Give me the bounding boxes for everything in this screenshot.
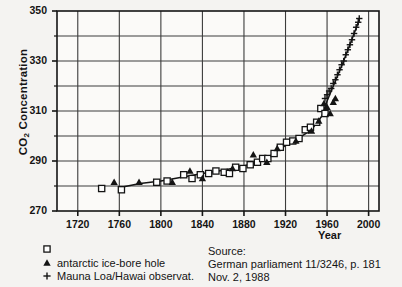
- legend-marker-filled-triangle: [40, 256, 54, 270]
- source-line-3: Nov. 2, 1988: [208, 271, 270, 283]
- y-tick-label-350: 350: [17, 4, 47, 16]
- y-tick-label-290: 290: [17, 154, 47, 166]
- legend-marker-plus: [40, 269, 54, 283]
- legend-marker-open-square: [40, 242, 54, 256]
- co2-concentration-chart: CO2 Concentration Year 270290310330350 1…: [0, 0, 402, 287]
- y-tick-label-270: 270: [17, 204, 47, 216]
- legend-label-2: Mauna Loa/Hawai observat.: [57, 270, 194, 282]
- x-axis-label: Year: [318, 229, 341, 241]
- y-tick-label-310: 310: [17, 104, 47, 116]
- y-axis-label-text: CO: [17, 137, 29, 155]
- y-tick-label-330: 330: [17, 54, 47, 66]
- source-line-2: German parliament 11/3246, p. 181: [208, 258, 381, 270]
- x-tick-label-1760: 1760: [97, 218, 141, 230]
- x-tick-label-1960: 1960: [305, 218, 349, 230]
- legend-label-1: antarctic ice-bore hole: [57, 257, 165, 269]
- plot-area: [0, 0, 402, 287]
- x-tick-label-2000: 2000: [347, 218, 391, 230]
- x-tick-label-1920: 1920: [264, 218, 308, 230]
- x-tick-label-1880: 1880: [222, 218, 266, 230]
- x-tick-label-1800: 1800: [139, 218, 183, 230]
- x-tick-label-1720: 1720: [56, 218, 100, 230]
- y-axis-label-subscript: 2: [22, 133, 31, 138]
- x-tick-label-1840: 1840: [180, 218, 224, 230]
- source-line-1: Source:: [208, 245, 246, 257]
